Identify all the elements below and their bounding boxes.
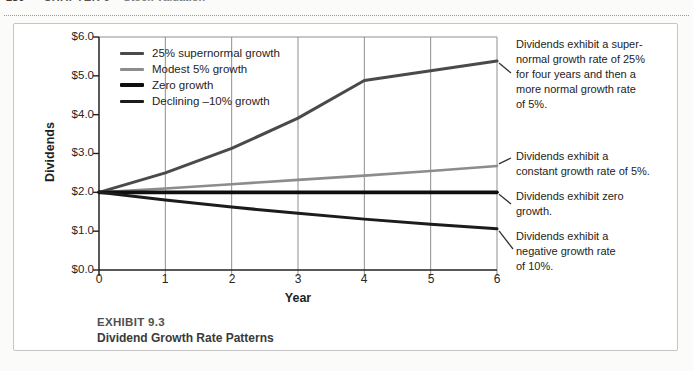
- annotation-negative-growth: Dividends exhibit a negative growth rate…: [516, 229, 690, 274]
- header-dotted-divider: [4, 15, 689, 16]
- legend-label-zero: Zero growth: [152, 79, 213, 91]
- section-title: Stock Valuation: [123, 0, 205, 3]
- legend-item-declining: Declining –10% growth: [120, 93, 280, 109]
- legend-item-modest: Modest 5% growth: [120, 61, 280, 77]
- y-axis-title: Dividends: [43, 92, 59, 212]
- legend-line-swatch-zero: [120, 83, 144, 87]
- x-axis-title: Year: [268, 291, 328, 305]
- x-tick-label-3: 3: [286, 272, 310, 286]
- legend-line-swatch-declining: [120, 100, 144, 103]
- x-tick-label-6: 6: [485, 272, 509, 286]
- y-tick-label-4: $4.0: [58, 108, 94, 120]
- x-tick-label-2: 2: [220, 272, 244, 286]
- page-running-header: 286 CHAPTER 9 Stock Valuation: [0, 0, 693, 5]
- y-tick-label-1: $1.0: [58, 224, 94, 236]
- annotation-constant-growth: Dividends exhibit a constant growth rate…: [516, 149, 690, 179]
- y-tick-label-5: $5.0: [58, 69, 94, 81]
- y-tick-label-2: $2.0: [58, 185, 94, 197]
- legend-label-supernormal: 25% supernormal growth: [152, 47, 280, 59]
- chart-legend: 25% supernormal growth Modest 5% growth …: [120, 45, 280, 109]
- legend-item-zero: Zero growth: [120, 77, 280, 93]
- exhibit-title: Dividend Growth Rate Patterns: [97, 331, 274, 345]
- x-tick-label-5: 5: [419, 272, 443, 286]
- legend-line-swatch-modest: [120, 68, 144, 71]
- y-tick-label-3: $3.0: [58, 146, 94, 158]
- legend-item-supernormal: 25% supernormal growth: [120, 45, 280, 61]
- textbook-page: { "page_header": { "page_number": "286",…: [0, 0, 693, 371]
- legend-label-declining: Declining –10% growth: [152, 95, 270, 107]
- exhibit-number-label: EXHIBIT 9.3: [97, 316, 165, 328]
- x-tick-label-4: 4: [352, 272, 376, 286]
- chapter-label: CHAPTER 9: [43, 0, 110, 3]
- legend-label-modest: Modest 5% growth: [152, 63, 247, 75]
- legend-line-swatch-supernormal: [120, 52, 144, 55]
- x-tick-label-1: 1: [153, 272, 177, 286]
- page-running-header-text: 286 CHAPTER 9 Stock Valuation: [0, 0, 693, 3]
- x-tick-label-0: 0: [87, 272, 111, 286]
- annotation-supernormal-growth: Dividends exhibit a super- normal growth…: [516, 37, 690, 112]
- annotation-zero-growth: Dividends exhibit zero growth.: [516, 189, 690, 219]
- y-tick-label-6: $6.0: [58, 30, 94, 42]
- page-number: 286: [6, 0, 24, 3]
